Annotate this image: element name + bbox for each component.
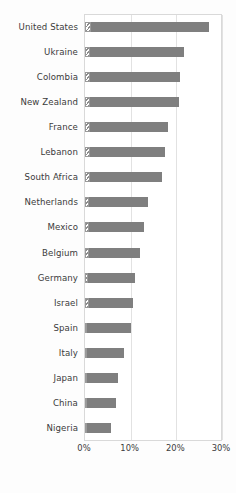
bar-rows: United StatesUkraineColombiaNew ZealandF… bbox=[0, 14, 236, 441]
category-label: Spain bbox=[53, 323, 78, 333]
bar-row: South Africa bbox=[0, 165, 236, 190]
bar bbox=[85, 398, 116, 408]
bar-row: Spain bbox=[0, 315, 236, 340]
category-label: Colombia bbox=[37, 72, 78, 82]
bar bbox=[85, 72, 180, 82]
bar-segment-solid bbox=[91, 22, 209, 32]
bar-segment-solid bbox=[89, 248, 140, 258]
bar-row: Netherlands bbox=[0, 190, 236, 215]
x-axis: 0%10%20%30% bbox=[84, 443, 222, 463]
bar-segment-solid bbox=[90, 47, 184, 57]
bar bbox=[85, 273, 135, 283]
bar-row: Israel bbox=[0, 290, 236, 315]
bar-chart-figure: United StatesUkraineColombiaNew ZealandF… bbox=[0, 0, 236, 493]
category-label: Japan bbox=[54, 373, 78, 383]
bar-row: Belgium bbox=[0, 240, 236, 265]
bar bbox=[85, 172, 162, 182]
bar-row: New Zealand bbox=[0, 89, 236, 114]
bar bbox=[85, 147, 165, 157]
bar-segment-solid bbox=[87, 323, 131, 333]
bar-segment-solid bbox=[89, 298, 134, 308]
bar bbox=[85, 373, 118, 383]
bar-row: France bbox=[0, 114, 236, 139]
bar bbox=[85, 222, 144, 232]
bar-row: Nigeria bbox=[0, 416, 236, 441]
bar bbox=[85, 122, 168, 132]
category-label: Ukraine bbox=[44, 47, 78, 57]
bar-segment-solid bbox=[88, 273, 135, 283]
bar-segment-solid bbox=[87, 423, 111, 433]
bar-segment-solid bbox=[90, 172, 163, 182]
bar-row: China bbox=[0, 391, 236, 416]
category-label: Israel bbox=[54, 298, 78, 308]
category-label: France bbox=[49, 122, 78, 132]
bar-row: Mexico bbox=[0, 215, 236, 240]
bar-segment-solid bbox=[87, 398, 116, 408]
bar-row: Ukraine bbox=[0, 39, 236, 64]
category-label: Italy bbox=[59, 348, 78, 358]
bar-row: Japan bbox=[0, 366, 236, 391]
x-tick-label: 30% bbox=[212, 443, 231, 453]
bar-segment-solid bbox=[90, 122, 168, 132]
x-tick-label: 0% bbox=[77, 443, 90, 453]
bar-segment-solid bbox=[89, 197, 147, 207]
bar bbox=[85, 197, 148, 207]
category-label: New Zealand bbox=[20, 97, 78, 107]
bar bbox=[85, 323, 131, 333]
bar bbox=[85, 248, 140, 258]
bar-segment-solid bbox=[87, 348, 124, 358]
bar-segment-solid bbox=[90, 72, 180, 82]
category-label: Nigeria bbox=[47, 423, 78, 433]
bar bbox=[85, 22, 209, 32]
category-label: Lebanon bbox=[41, 147, 79, 157]
bar-row: Germany bbox=[0, 265, 236, 290]
bar bbox=[85, 298, 133, 308]
category-label: Belgium bbox=[42, 248, 78, 258]
bar bbox=[85, 97, 179, 107]
category-label: Netherlands bbox=[25, 197, 79, 207]
category-label: South Africa bbox=[25, 172, 78, 182]
bar bbox=[85, 423, 111, 433]
bar-segment-solid bbox=[89, 222, 144, 232]
bar-row: Lebanon bbox=[0, 140, 236, 165]
category-label: Germany bbox=[38, 273, 78, 283]
bar-segment-solid bbox=[87, 373, 118, 383]
bar bbox=[85, 348, 124, 358]
bar-row: United States bbox=[0, 14, 236, 39]
category-label: Mexico bbox=[47, 222, 78, 232]
x-tick-label: 20% bbox=[166, 443, 185, 453]
category-label: China bbox=[53, 398, 78, 408]
bar-row: Italy bbox=[0, 341, 236, 366]
x-tick-label: 10% bbox=[120, 443, 139, 453]
bar bbox=[85, 47, 184, 57]
category-label: United States bbox=[19, 22, 79, 32]
bar-segment-solid bbox=[90, 147, 166, 157]
bar-row: Colombia bbox=[0, 64, 236, 89]
bar-segment-solid bbox=[90, 97, 179, 107]
